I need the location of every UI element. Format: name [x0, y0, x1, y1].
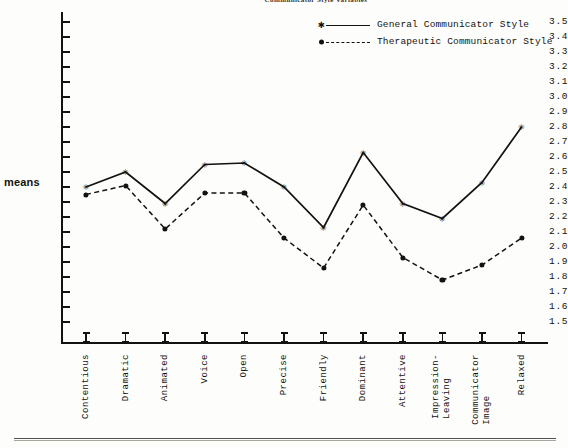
y-tick-label: 3.2 [538, 61, 568, 72]
star-marker-icon: ✱ [318, 19, 325, 30]
data-point: ✳ [439, 213, 446, 224]
data-point [163, 226, 168, 231]
data-point [519, 235, 524, 240]
data-point: ✳ [399, 198, 406, 209]
y-tick [63, 126, 70, 127]
data-point [440, 277, 445, 282]
legend-key-general: ✱ [318, 19, 370, 31]
legend-label-general: General Communicator Style [377, 19, 529, 30]
y-tick-label: 2.1 [538, 226, 568, 237]
x-tick-label: Contentious [81, 354, 91, 419]
data-point [400, 255, 405, 260]
data-point [202, 190, 207, 195]
dot-marker-icon [319, 39, 324, 44]
x-tick-label: Precise [279, 354, 289, 395]
x-tick [85, 332, 87, 343]
y-tick [63, 276, 70, 277]
x-tick-label: CommunicatorImage [471, 354, 493, 425]
y-tick [63, 66, 70, 67]
data-point [123, 183, 128, 188]
data-point: ✳ [162, 198, 169, 209]
data-point: ✳ [281, 182, 288, 193]
y-tick [63, 231, 70, 232]
y-tick-label: 1.8 [538, 271, 568, 282]
y-tick-label: 2.4 [538, 181, 568, 192]
solid-line-sample [326, 25, 370, 26]
y-tick [63, 201, 70, 202]
y-tick-label: 3.3 [538, 46, 568, 57]
legend-item-general: ✱ General Communicator Style [318, 16, 553, 33]
y-tick [63, 51, 70, 52]
data-point [479, 262, 484, 267]
y-tick-label: 3.5 [538, 16, 568, 27]
x-tick-label: Dominant [358, 354, 368, 401]
x-tick [244, 332, 246, 343]
legend-label-therapeutic: Therapeutic Communicator Style [377, 36, 553, 47]
y-tick [63, 216, 70, 217]
data-point [321, 265, 326, 270]
data-point: ✳ [320, 222, 327, 233]
y-tick-label: 2.2 [538, 211, 568, 222]
x-tick-label: Dramatic [121, 354, 131, 401]
y-tick-label: 2.3 [538, 196, 568, 207]
y-tick-label: 2.8 [538, 121, 568, 132]
x-tick [323, 332, 325, 343]
x-tick [442, 332, 444, 343]
data-point [83, 192, 88, 197]
y-tick-label: 1.7 [538, 286, 568, 297]
y-tick [63, 96, 70, 97]
y-tick [63, 186, 70, 187]
x-tick [362, 332, 364, 343]
data-point: ✳ [518, 122, 525, 133]
chart-legend: ✱ General Communicator Style Therapeutic… [318, 16, 553, 50]
y-tick-label: 2.9 [538, 106, 568, 117]
y-tick [63, 111, 70, 112]
x-tick-label: Animated [160, 354, 170, 401]
y-tick-label: 2.6 [538, 151, 568, 162]
data-point [281, 235, 286, 240]
y-tick [63, 156, 70, 157]
x-tick [204, 332, 206, 343]
data-point: ✳ [201, 159, 208, 170]
y-tick [63, 291, 70, 292]
y-tick-label: 2.0 [538, 241, 568, 252]
y-tick [63, 261, 70, 262]
y-tick [63, 246, 70, 247]
series-line-therapeutic [86, 186, 522, 281]
x-axis-line [61, 342, 548, 344]
y-tick [63, 306, 70, 307]
x-tick-label: Relaxed [517, 354, 527, 395]
y-tick [63, 36, 70, 37]
y-tick-label: 3.4 [538, 31, 568, 42]
y-tick [63, 171, 70, 172]
data-point: ✳ [122, 167, 129, 178]
x-tick-label: Friendly [319, 354, 329, 401]
data-point: ✳ [360, 147, 367, 158]
y-tick [63, 81, 70, 82]
data-point [242, 190, 247, 195]
y-tick-label: 1.5 [538, 316, 568, 327]
y-tick-label: 3.0 [538, 91, 568, 102]
y-tick-label: 1.6 [538, 301, 568, 312]
footer-divider-shadow [14, 440, 556, 441]
y-tick [63, 141, 70, 142]
x-tick [283, 332, 285, 343]
y-tick-label: 2.7 [538, 136, 568, 147]
data-point [361, 202, 366, 207]
data-point: ✳ [83, 182, 90, 193]
y-tick [63, 321, 70, 322]
y-tick-label: 1.9 [538, 256, 568, 267]
legend-key-therapeutic [318, 36, 370, 48]
x-tick-label: Attentive [398, 354, 408, 407]
chart-container: Communicator Style Variables ✱ General C… [0, 0, 568, 448]
y-tick-label: 3.1 [538, 76, 568, 87]
x-tick-label: Voice [200, 354, 210, 384]
y-axis-label: means [4, 176, 40, 188]
data-point: ✳ [241, 158, 248, 169]
data-point: ✳ [479, 177, 486, 188]
y-tick-label: 2.5 [538, 166, 568, 177]
x-tick [164, 332, 166, 343]
x-tick-label: Open [239, 354, 249, 378]
x-tick [402, 332, 404, 343]
chart-title: Communicator Style Variables [196, 0, 436, 3]
